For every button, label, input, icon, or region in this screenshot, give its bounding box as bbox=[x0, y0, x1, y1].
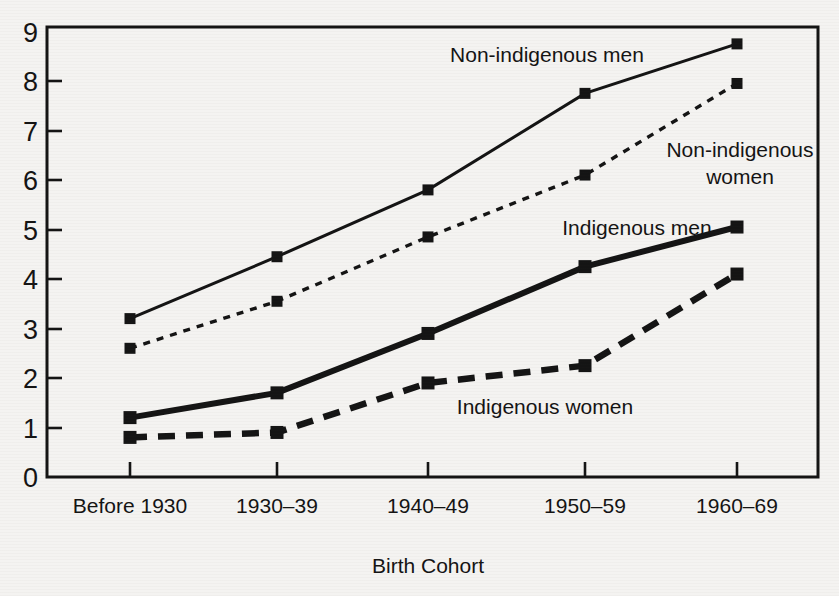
x-tick-label-0: Before 1930 bbox=[73, 494, 187, 517]
data-point-marker bbox=[272, 296, 283, 307]
data-point-marker bbox=[579, 260, 592, 273]
y-tick-label-0: 0 bbox=[23, 463, 38, 493]
data-point-marker bbox=[423, 231, 434, 242]
y-tick-label-6: 6 bbox=[23, 166, 38, 196]
x-tick-label-3: 1950–59 bbox=[544, 494, 626, 517]
y-axis-ticks bbox=[47, 81, 62, 428]
series-label-non-indigenous-women-line1: Non-indigenous bbox=[666, 138, 813, 161]
data-point-marker bbox=[272, 251, 283, 262]
y-tick-label-1: 1 bbox=[23, 414, 38, 444]
y-tick-label-7: 7 bbox=[23, 117, 38, 147]
data-point-marker bbox=[124, 431, 137, 444]
x-tick-label-2: 1940–49 bbox=[387, 494, 469, 517]
y-tick-label-4: 4 bbox=[23, 265, 38, 295]
data-point-marker bbox=[732, 38, 743, 49]
y-tick-label-5: 5 bbox=[23, 216, 38, 246]
x-axis-ticks bbox=[130, 462, 737, 477]
chart-container: 0 1 2 3 4 5 6 7 8 9 Before 1930 1930–39 … bbox=[0, 0, 839, 596]
data-point-marker bbox=[125, 313, 136, 324]
data-point-marker bbox=[422, 327, 435, 340]
x-axis-title: Birth Cohort bbox=[372, 554, 484, 577]
series-line-indigenous-women bbox=[130, 274, 737, 437]
y-tick-label-3: 3 bbox=[23, 315, 38, 345]
series-label-indigenous-men: Indigenous men bbox=[562, 216, 711, 239]
y-tick-label-2: 2 bbox=[23, 364, 38, 394]
data-point-marker bbox=[422, 376, 435, 389]
y-tick-label-9: 9 bbox=[23, 18, 38, 48]
data-point-marker bbox=[579, 359, 592, 372]
data-point-marker bbox=[423, 184, 434, 195]
line-chart: 0 1 2 3 4 5 6 7 8 9 Before 1930 1930–39 … bbox=[0, 0, 839, 596]
data-point-marker bbox=[124, 411, 137, 424]
data-point-marker bbox=[732, 78, 743, 89]
series-label-indigenous-women: Indigenous women bbox=[457, 395, 633, 418]
series-label-non-indigenous-women-line2: women bbox=[705, 165, 774, 188]
series-markers bbox=[124, 38, 744, 444]
y-tick-label-8: 8 bbox=[23, 67, 38, 97]
x-tick-label-4: 1960–69 bbox=[696, 494, 778, 517]
y-axis-labels: 0 1 2 3 4 5 6 7 8 9 bbox=[23, 18, 38, 493]
data-point-marker bbox=[271, 386, 284, 399]
series-label-non-indigenous-men: Non-indigenous men bbox=[450, 43, 644, 66]
data-point-marker bbox=[731, 221, 744, 234]
data-point-marker bbox=[271, 426, 284, 439]
series-line-non-indigenous-men bbox=[130, 44, 737, 319]
data-point-marker bbox=[125, 343, 136, 354]
data-point-marker bbox=[731, 268, 744, 281]
data-point-marker bbox=[580, 88, 591, 99]
x-tick-label-1: 1930–39 bbox=[236, 494, 318, 517]
x-axis-labels: Before 1930 1930–39 1940–49 1950–59 1960… bbox=[73, 494, 778, 517]
data-point-marker bbox=[580, 170, 591, 181]
